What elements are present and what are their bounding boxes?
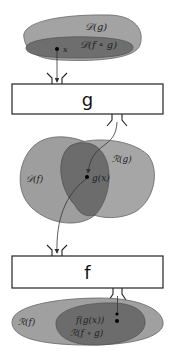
composition-diagram: 𝒟(g) 𝒟(f ∘ g) x g 𝒟(f) ℛ(g) g(x) f bbox=[0, 0, 175, 354]
domain-f-of-g-label: 𝒟(f ∘ g) bbox=[80, 39, 117, 50]
function-box-g: g bbox=[12, 84, 163, 114]
point-f-g-x bbox=[115, 319, 119, 323]
point-x-label: x bbox=[63, 45, 68, 54]
function-f-label: f bbox=[84, 262, 91, 283]
point-x bbox=[55, 47, 59, 51]
point-g-x bbox=[85, 175, 89, 179]
function-g-label: g bbox=[82, 89, 93, 110]
range-f-of-g-label: ℛ(f ∘ g) bbox=[70, 328, 104, 338]
range-f-label: ℛ(f) bbox=[18, 317, 36, 327]
function-box-f: f bbox=[12, 256, 163, 288]
point-g-x-label: g(x) bbox=[92, 173, 110, 183]
range-g-label: ℛ(g) bbox=[112, 154, 132, 164]
point-f-g-x-label: f(g(x)) bbox=[75, 315, 105, 325]
domain-g-label: 𝒟(g) bbox=[85, 21, 107, 32]
domain-f-label: 𝒟(f) bbox=[26, 174, 44, 184]
point-f-g-x-upper bbox=[115, 312, 118, 315]
